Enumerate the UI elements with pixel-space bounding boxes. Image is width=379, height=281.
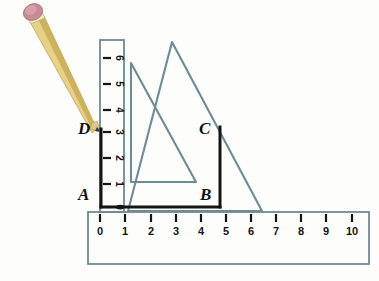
horizontal-ruler-number: 9 — [323, 226, 329, 237]
point-label-b: B — [200, 186, 211, 203]
horizontal-ruler-number: 1 — [122, 226, 128, 237]
horizontal-ruler-number: 3 — [173, 226, 179, 237]
point-label-a: A — [78, 186, 89, 203]
horizontal-ruler-number: 7 — [273, 226, 279, 237]
figure-svg — [0, 0, 379, 281]
vertical-ruler-number: 3 — [114, 129, 124, 135]
vertical-ruler-number: 5 — [114, 81, 124, 87]
vertical-ruler-number: 4 — [114, 107, 124, 113]
pencil-body-shade — [38, 16, 97, 131]
figure-canvas: ABCD 012345678910 6543210 — [0, 0, 379, 281]
horizontal-ruler-number: 8 — [298, 226, 304, 237]
horizontal-ruler-number: 2 — [148, 226, 154, 237]
vertical-ruler-number: 0 — [114, 204, 124, 210]
point-label-c: C — [199, 120, 210, 137]
pencil — [21, 1, 101, 133]
horizontal-ruler-number: 4 — [198, 226, 204, 237]
horizontal-ruler-number: 6 — [248, 226, 254, 237]
vertical-ruler-number: 1 — [114, 181, 124, 187]
horizontal-ruler — [88, 212, 369, 264]
horizontal-ruler-number: 10 — [346, 226, 358, 237]
vertical-ruler-number: 2 — [114, 155, 124, 161]
horizontal-ruler-number: 5 — [223, 226, 229, 237]
vertical-ruler-number: 6 — [114, 55, 124, 61]
point-label-d: D — [78, 120, 90, 137]
horizontal-ruler-number: 0 — [97, 226, 103, 237]
